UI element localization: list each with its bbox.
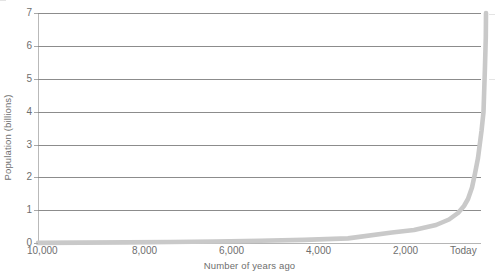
x-axis-title: Number of years ago bbox=[0, 260, 501, 271]
y-tick-mark-4 bbox=[34, 112, 38, 113]
population-chart: Population (billions) 7 6 5 4 3 2 1 0 bbox=[0, 0, 501, 275]
y-axis-ticks: 7 6 5 4 3 2 1 0 bbox=[0, 0, 501, 275]
y-tick-mark-2 bbox=[34, 177, 38, 178]
y-tick-label-3: 3 bbox=[6, 140, 32, 150]
x-tick-label-8000: 8,000 bbox=[132, 245, 157, 256]
x-tick-label-2000: 2,000 bbox=[393, 245, 418, 256]
x-tick-label-today: Today bbox=[450, 245, 477, 256]
y-tick-mark-3 bbox=[34, 145, 38, 146]
y-tick-mark-6 bbox=[34, 46, 38, 47]
y-tick-label-6: 6 bbox=[6, 41, 32, 51]
y-tick-label-1: 1 bbox=[6, 205, 32, 215]
y-tick-mark-0 bbox=[34, 243, 38, 244]
x-axis-title-text: Number of years ago bbox=[204, 260, 296, 271]
scan-artifact bbox=[489, 79, 495, 80]
x-tick-label-10000: 10,000 bbox=[27, 245, 58, 256]
scan-artifact bbox=[0, 0, 6, 1]
y-tick-label-2: 2 bbox=[6, 172, 32, 182]
y-tick-mark-7 bbox=[34, 13, 38, 14]
y-tick-label-5: 5 bbox=[6, 74, 32, 84]
x-tick-label-4000: 4,000 bbox=[306, 245, 331, 256]
y-tick-label-7: 7 bbox=[6, 8, 32, 18]
scan-artifact bbox=[489, 14, 495, 15]
y-tick-mark-1 bbox=[34, 210, 38, 211]
y-tick-label-4: 4 bbox=[6, 107, 32, 117]
x-tick-label-6000: 6,000 bbox=[219, 245, 244, 256]
y-tick-mark-5 bbox=[34, 79, 38, 80]
